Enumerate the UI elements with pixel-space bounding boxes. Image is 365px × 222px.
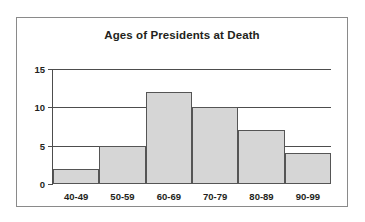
chart-frame: Ages of Presidents at Death 15 10 5 0 40… xyxy=(16,17,348,207)
x-tick-label-80-89: 80-89 xyxy=(249,191,273,202)
bar-70-79 xyxy=(192,107,238,184)
y-tick-label-10: 10 xyxy=(34,102,45,113)
y-tick-label-15: 15 xyxy=(34,64,45,75)
y-tick-label-0: 0 xyxy=(40,179,45,190)
bar-50-59 xyxy=(99,146,145,184)
chart-title: Ages of Presidents at Death xyxy=(17,29,347,41)
x-tick-label-50-59: 50-59 xyxy=(110,191,134,202)
bar-group xyxy=(53,69,331,184)
x-tick-label-70-79: 70-79 xyxy=(203,191,227,202)
bar-40-49 xyxy=(53,169,99,184)
bar-80-89 xyxy=(238,130,284,184)
bar-60-69 xyxy=(146,92,192,184)
bar-90-99 xyxy=(285,153,331,184)
x-tick-label-40-49: 40-49 xyxy=(64,191,88,202)
x-tick-label-60-69: 60-69 xyxy=(157,191,181,202)
x-tick-label-90-99: 90-99 xyxy=(296,191,320,202)
y-tick-mark-0 xyxy=(48,184,53,185)
plot-area: 15 10 5 0 40-49 50-59 60-69 70-79 80-89 … xyxy=(53,69,331,184)
y-tick-label-5: 5 xyxy=(40,140,45,151)
